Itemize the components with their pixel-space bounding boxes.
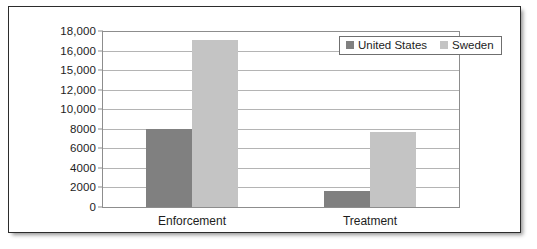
legend-label-sweden: Sweden <box>452 39 494 51</box>
bar-united-states-enforcement[interactable] <box>146 129 192 207</box>
y-axis-tick-mark-0 <box>98 207 103 208</box>
y-axis-tick-mark-10000 <box>98 109 103 110</box>
y-axis-tick-mark-4000 <box>98 167 103 168</box>
legend-entry-united-states[interactable]: United States <box>346 39 427 51</box>
x-axis-category-label-enforcement: Enforcement <box>158 214 226 228</box>
y-axis-tick-label-18000: 18,000 <box>60 25 103 37</box>
gridline-10000 <box>103 109 459 110</box>
y-axis-tick-mark-8000 <box>98 128 103 129</box>
legend-label-united-states: United States <box>358 39 427 51</box>
chart-figure-frame: 0200040006000800010,00012,00015,00016,00… <box>8 6 521 233</box>
y-axis-tick-label-16000: 16,000 <box>60 45 103 57</box>
y-axis-tick-mark-18000 <box>98 31 103 32</box>
y-axis-tick-mark-2000 <box>98 187 103 188</box>
plot-area: 0200040006000800010,00012,00015,00016,00… <box>102 31 460 208</box>
legend-swatch-sweden-icon <box>440 41 448 49</box>
y-axis-tick-label-14000: 15,000 <box>60 64 103 76</box>
y-axis-tick-label-12000: 12,000 <box>60 84 103 96</box>
x-axis-category-label-treatment: Treatment <box>343 214 397 228</box>
gridline-12000 <box>103 90 459 91</box>
y-axis-tick-label-10000: 10,000 <box>60 103 103 115</box>
legend-swatch-united-states-icon <box>346 41 354 49</box>
chart-legend: United States Sweden <box>339 36 502 55</box>
bar-united-states-treatment[interactable] <box>324 191 370 207</box>
bar-sweden-treatment[interactable] <box>370 132 416 207</box>
legend-entry-sweden[interactable]: Sweden <box>440 39 494 51</box>
y-axis-tick-mark-16000 <box>98 50 103 51</box>
y-axis-tick-mark-14000 <box>98 70 103 71</box>
y-axis-tick-mark-6000 <box>98 148 103 149</box>
gridline-0 <box>103 207 459 208</box>
y-axis-tick-mark-12000 <box>98 89 103 90</box>
gridline-14000 <box>103 70 459 71</box>
gridline-18000 <box>103 31 459 32</box>
bar-chart: 0200040006000800010,00012,00015,00016,00… <box>9 7 520 232</box>
bar-sweden-enforcement[interactable] <box>192 40 238 207</box>
